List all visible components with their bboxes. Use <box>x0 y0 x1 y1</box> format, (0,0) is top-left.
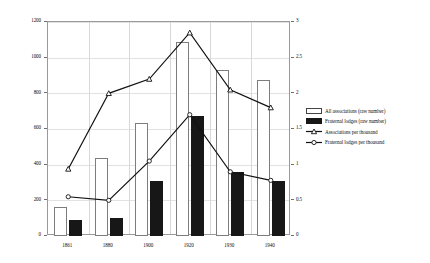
y-axis-left-tick <box>44 128 47 129</box>
legend-swatch-open-bar-icon <box>306 108 322 114</box>
y-axis-left-tick <box>44 57 47 58</box>
y-axis-right-tick-label: 2.5 <box>296 54 318 59</box>
line-fraternal-per-thousand <box>68 115 271 201</box>
y-axis-right-tick-label: 1 <box>296 161 318 166</box>
x-axis-tick-label-1930: 1930 <box>209 243 249 248</box>
y-axis-left-tick <box>44 92 47 93</box>
y-axis-left-tick <box>44 199 47 200</box>
y-axis-left-tick <box>44 21 47 22</box>
legend-item-label: Associations per thousand <box>325 129 377 135</box>
legend-item: Fraternal lodges per thousand <box>306 138 430 147</box>
x-axis-tick-label-1861: 1861 <box>47 243 87 248</box>
x-axis-tick-label-1940: 1940 <box>250 243 290 248</box>
y-axis-left-tick-label: 0 <box>17 232 41 237</box>
legend-item-label: Fraternal lodges (raw number) <box>325 118 386 124</box>
x-axis-tick-label-1920: 1920 <box>169 243 209 248</box>
y-axis-left-tick-label: 1000 <box>17 54 41 59</box>
data-point-marker <box>269 178 273 182</box>
legend-item: All associations (raw number) <box>306 106 430 115</box>
x-axis-tick-label-1900: 1900 <box>128 243 168 248</box>
chart-legend: All associations (raw number)Fraternal l… <box>306 106 430 148</box>
data-point-marker <box>187 30 192 35</box>
data-point-marker <box>228 170 232 174</box>
y-axis-right-tick <box>291 199 294 200</box>
line-associations-per-thousand <box>68 33 271 169</box>
y-axis-right-tick <box>291 235 294 236</box>
y-axis-left-tick-label: 1200 <box>17 18 41 23</box>
y-axis-right-tick <box>291 57 294 58</box>
data-point-marker <box>66 195 70 199</box>
y-axis-left-tick-label: 200 <box>17 197 41 202</box>
legend-triangle-marker-icon <box>306 128 322 135</box>
y-axis-right-tick-label: 2 <box>296 90 318 95</box>
legend-item: Associations per thousand <box>306 127 430 136</box>
x-axis-tick-label-1880: 1880 <box>88 243 128 248</box>
y-axis-right-tick-label: 3 <box>296 18 318 23</box>
y-axis-right-tick <box>291 164 294 165</box>
y-axis-right-tick <box>291 128 294 129</box>
legend-item: Fraternal lodges (raw number) <box>306 117 430 126</box>
y-axis-right-tick-label: 0 <box>296 232 318 237</box>
legend-item-label: All associations (raw number) <box>325 108 385 114</box>
chart-container: 020040060080010001200 00.511.522.53 1861… <box>0 0 430 263</box>
y-axis-left-tick-label: 400 <box>17 161 41 166</box>
y-axis-right-tick <box>291 21 294 22</box>
legend-circle-marker-icon <box>306 139 322 146</box>
y-axis-left-tick-label: 600 <box>17 125 41 130</box>
legend-swatch-solid-bar-icon <box>306 118 322 124</box>
data-point-marker <box>107 198 111 202</box>
line-series-layer <box>48 22 291 236</box>
y-axis-right-tick-label: 0.5 <box>296 197 318 202</box>
data-point-marker <box>147 159 151 163</box>
data-point-marker <box>188 113 192 117</box>
plot-area <box>47 21 290 235</box>
y-axis-left-tick <box>44 235 47 236</box>
y-axis-left-tick-label: 800 <box>17 90 41 95</box>
y-axis-right-tick <box>291 92 294 93</box>
data-point-marker <box>66 166 71 171</box>
y-axis-left-tick <box>44 164 47 165</box>
legend-item-label: Fraternal lodges per thousand <box>325 139 384 145</box>
